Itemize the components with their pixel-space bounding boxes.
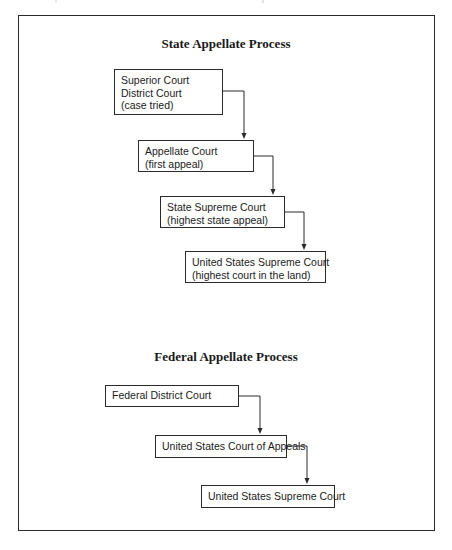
step-note: (first appeal) — [145, 158, 247, 171]
cropped-text-fragment — [0, 0, 452, 3]
step-label: State Supreme Court — [167, 201, 278, 214]
state-process-title: State Appellate Process — [0, 36, 452, 52]
step-label: United States Supreme Court — [192, 256, 319, 269]
step-label: United States Court of Appeals — [162, 440, 280, 453]
step-label: District Court — [121, 87, 216, 100]
state-step-superior-district-court: Superior Court District Court (case trie… — [114, 69, 223, 115]
state-step-appellate-court: Appellate Court (first appeal) — [138, 140, 254, 172]
federal-process-title: Federal Appellate Process — [0, 349, 452, 365]
state-step-us-supreme-court: United States Supreme Court (highest cou… — [185, 251, 326, 283]
step-note: (highest court in the land) — [192, 269, 319, 282]
step-label: United States Supreme Court — [208, 490, 328, 503]
state-step-state-supreme-court: State Supreme Court (highest state appea… — [160, 196, 285, 228]
step-label: Federal District Court — [112, 389, 232, 402]
federal-step-district-court: Federal District Court — [105, 385, 239, 407]
federal-step-court-of-appeals: United States Court of Appeals — [155, 435, 287, 458]
step-label: Superior Court — [121, 74, 216, 87]
step-label: Appellate Court — [145, 145, 247, 158]
step-note: (case tried) — [121, 99, 216, 112]
federal-step-us-supreme-court: United States Supreme Court — [201, 485, 335, 508]
step-note: (highest state appeal) — [167, 214, 278, 227]
